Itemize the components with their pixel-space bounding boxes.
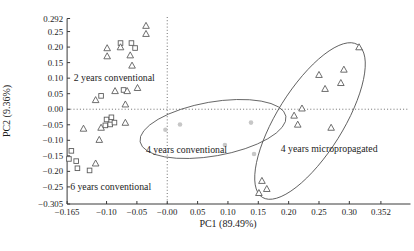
data-point-square: [109, 115, 114, 120]
y-tick-label: −0.05: [43, 120, 64, 130]
data-point-square: [69, 149, 74, 154]
y-tick-label: 0.15: [48, 58, 64, 68]
data-point-triangle: [104, 45, 111, 51]
pca-figure: −0.165−0.10−0.05−0.000.050.100.150.200.2…: [0, 0, 414, 251]
x-axis-title: PC1 (89.49%): [199, 218, 256, 230]
data-point-square: [67, 157, 72, 162]
data-point-triangle: [134, 84, 141, 90]
data-point-triangle: [129, 62, 136, 68]
y-tick-label: 0.05: [48, 89, 64, 99]
data-point-triangle: [322, 85, 329, 91]
data-point-triangle: [294, 121, 301, 127]
y-axis-title: PC2 (9.36%): [1, 85, 13, 137]
pca-scatter-plot: −0.165−0.10−0.05−0.000.050.100.150.200.2…: [0, 0, 414, 251]
data-point-square: [99, 94, 104, 99]
y-tick-label: 0.20: [48, 42, 64, 52]
data-point-triangle: [104, 53, 111, 59]
x-tick-label: 0.05: [190, 207, 206, 217]
data-point-triangle: [259, 177, 266, 183]
x-tick-label: −0.00: [157, 207, 178, 217]
cluster-label: 4 years conventional: [146, 144, 227, 155]
data-point-square: [129, 41, 134, 46]
data-point-triangle: [92, 97, 99, 103]
data-point-triangle: [143, 30, 150, 36]
data-point-circle: [178, 122, 183, 127]
data-point-triangle: [122, 101, 129, 107]
x-tick-label: 0.20: [281, 207, 297, 217]
data-point-triangle: [263, 185, 270, 191]
data-point-triangle: [127, 52, 134, 58]
data-point-triangle: [338, 80, 345, 86]
data-point-circle: [252, 152, 257, 157]
data-point-square: [87, 168, 92, 173]
cluster-ellipse-four-years-conventional-cluster: [135, 90, 290, 169]
x-tick-label: 0.352: [371, 207, 391, 217]
x-tick-label: 0.30: [342, 207, 358, 217]
x-tick-label: 0.10: [220, 207, 236, 217]
y-tick-label: 0.25: [48, 27, 64, 37]
data-point-square: [75, 166, 80, 171]
data-point-triangle: [328, 124, 335, 130]
data-point-triangle: [92, 160, 99, 166]
data-point-triangle: [122, 119, 129, 125]
y-tick-label: −0.305: [38, 199, 63, 209]
data-point-circle: [163, 127, 168, 132]
data-point-triangle: [291, 112, 298, 118]
data-point-triangle: [341, 66, 348, 72]
data-point-triangle: [96, 136, 103, 142]
data-point-triangle: [299, 105, 306, 111]
x-tick-label: 0.25: [311, 207, 327, 217]
x-tick-label: −0.10: [96, 207, 117, 217]
data-point-square: [133, 46, 138, 51]
x-tick-label: −0.05: [127, 207, 148, 217]
y-tick-label: 0.00: [48, 104, 64, 114]
y-tick-label: 0.292: [43, 14, 63, 24]
data-point-square: [103, 123, 108, 128]
cluster-label: 2 years conventional: [74, 72, 155, 83]
data-point-square: [112, 120, 117, 125]
data-point-square: [104, 117, 109, 122]
y-tick-label: 0.10: [48, 73, 64, 83]
cluster-ellipse-four-years-micropropagated-cluster: [234, 27, 385, 215]
y-tick-label: −0.15: [43, 151, 64, 161]
cluster-label: 6 years conventional: [70, 181, 151, 192]
y-tick-label: −0.20: [43, 166, 64, 176]
y-tick-label: −0.10: [43, 135, 64, 145]
x-tick-label: 0.15: [251, 207, 267, 217]
data-point-square: [74, 159, 79, 164]
data-point-triangle: [143, 22, 150, 28]
data-point-triangle: [112, 88, 119, 94]
data-point-triangle: [356, 44, 363, 50]
data-point-triangle: [80, 125, 87, 131]
data-point-circle: [249, 120, 254, 125]
y-tick-label: −0.25: [43, 182, 64, 192]
cluster-label: 4 years micropropagated: [281, 143, 378, 154]
data-point-triangle: [316, 71, 323, 77]
